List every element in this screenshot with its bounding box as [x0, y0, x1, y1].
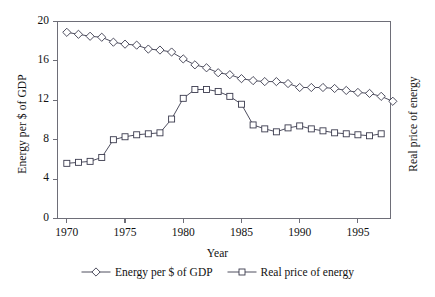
legend-label: Real price of energy	[261, 266, 354, 278]
data-point-diamond	[377, 92, 385, 100]
data-point-square	[75, 159, 81, 165]
data-point-square	[320, 128, 326, 134]
data-point-square	[215, 88, 221, 94]
x-tick-label: 1970	[43, 226, 91, 238]
x-tick-label: 1990	[276, 226, 324, 238]
data-point-diamond	[296, 83, 304, 91]
series-line	[67, 89, 381, 163]
data-point-square	[134, 132, 140, 138]
series-layer	[63, 28, 397, 166]
x-tick-label: 1985	[217, 226, 265, 238]
axis-frame	[58, 22, 391, 219]
data-point-square	[99, 154, 105, 160]
data-point-square	[204, 86, 210, 92]
y-tick-label: 16	[23, 53, 49, 65]
data-point-diamond	[226, 71, 234, 79]
data-point-square	[64, 160, 70, 166]
data-point-square	[238, 101, 244, 107]
data-point-diamond	[144, 45, 152, 53]
data-point-square	[355, 132, 361, 138]
chart-legend: Energy per $ of GDPReal price of energy	[0, 266, 435, 278]
data-point-diamond	[191, 61, 199, 69]
data-point-diamond	[168, 48, 176, 56]
data-point-diamond	[202, 64, 210, 72]
data-point-diamond	[261, 77, 269, 85]
data-point-square	[110, 137, 116, 143]
y-tick-label: 4	[23, 171, 49, 183]
legend-entry: Energy per $ of GDP	[81, 266, 213, 278]
x-tick-label: 1980	[159, 226, 207, 238]
data-point-diamond	[249, 77, 257, 85]
data-point-diamond	[214, 69, 222, 77]
data-point-diamond	[319, 83, 327, 91]
data-point-diamond	[284, 79, 292, 87]
data-point-diamond	[354, 88, 362, 96]
data-point-square	[285, 125, 291, 131]
data-point-square	[122, 134, 128, 140]
data-point-diamond	[133, 41, 141, 49]
x-tick-label: 1975	[101, 226, 149, 238]
data-point-diamond	[156, 46, 164, 54]
data-point-square	[180, 95, 186, 101]
legend-square-icon	[227, 266, 257, 278]
data-point-square	[192, 86, 198, 92]
data-point-square	[367, 133, 373, 139]
data-point-square	[332, 130, 338, 136]
data-point-diamond	[331, 84, 339, 92]
data-point-diamond	[179, 55, 187, 63]
data-point-diamond	[121, 40, 129, 48]
legend-label: Energy per $ of GDP	[115, 266, 213, 278]
data-point-diamond	[63, 28, 71, 36]
y-tick-label: 8	[23, 132, 49, 144]
data-point-square	[87, 158, 93, 164]
chart-figure: Energy per $ of GDP Real price of energy…	[0, 0, 435, 297]
x-tick-label: 1995	[334, 226, 382, 238]
legend-diamond-icon	[81, 266, 111, 278]
legend-entry: Real price of energy	[227, 266, 354, 278]
data-point-diamond	[86, 32, 94, 40]
data-point-square	[145, 131, 151, 137]
y-tick-label: 12	[23, 92, 49, 104]
data-point-diamond	[109, 38, 117, 46]
tick-marks	[53, 22, 358, 224]
data-point-square	[308, 126, 314, 132]
data-point-diamond	[365, 89, 373, 97]
series-2	[64, 86, 384, 166]
data-point-square	[250, 122, 256, 128]
data-point-square	[169, 116, 175, 122]
y-tick-label: 0	[23, 211, 49, 223]
data-point-diamond	[98, 33, 106, 41]
data-point-square	[297, 123, 303, 129]
y-tick-label: 20	[23, 14, 49, 26]
data-point-diamond	[307, 83, 315, 91]
data-point-square	[227, 93, 233, 99]
data-point-diamond	[237, 75, 245, 83]
data-point-square	[157, 130, 163, 136]
data-point-square	[343, 131, 349, 137]
data-point-square	[378, 131, 384, 137]
data-point-square	[262, 126, 268, 132]
data-point-diamond	[74, 30, 82, 38]
plot-area	[0, 0, 435, 297]
data-point-square	[273, 129, 279, 135]
data-point-diamond	[272, 77, 280, 85]
data-point-diamond	[342, 86, 350, 94]
